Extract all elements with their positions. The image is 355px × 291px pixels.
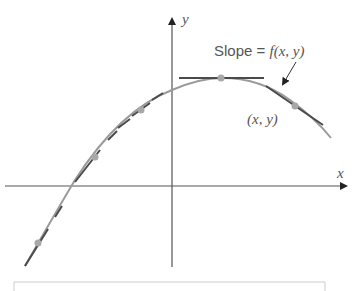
x-axis-label: x (336, 165, 344, 181)
curve-points (35, 75, 299, 247)
diagram-canvas: y x Slope = f(x, y) (x, y) (0, 0, 355, 291)
point-label: (x, y) (247, 111, 278, 128)
slope-label: Slope = f(x, y) (214, 42, 304, 60)
curve-point (138, 107, 145, 114)
curve-point (92, 154, 99, 161)
tangent-segments (25, 78, 323, 266)
curve-point (35, 240, 42, 247)
annotation-arrow (283, 62, 296, 84)
y-axis-label: y (180, 11, 189, 27)
slope-label-prefix: Slope = (214, 42, 269, 59)
curve-point (218, 75, 225, 82)
curve-point (292, 103, 299, 110)
solution-curve (25, 78, 331, 266)
caption-frame (14, 282, 325, 291)
slope-function: f(x, y) (269, 43, 304, 60)
